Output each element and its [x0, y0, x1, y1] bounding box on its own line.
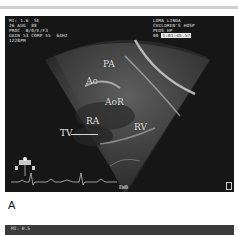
- echocardiogram-panel-b: MI: 0.5: [5, 225, 234, 235]
- label-ao: Ao: [86, 76, 98, 86]
- panel-label: A: [8, 199, 15, 211]
- label-tv: TV: [60, 128, 73, 138]
- overlay-right-text: LOMA LINDACHILDREN'S HOSPPEDS HP00 1:01:…: [153, 18, 195, 38]
- label-rv: RV: [134, 122, 147, 132]
- panel-b-overlay-text: MI: 0.5: [11, 226, 30, 231]
- ecg-trace: [9, 156, 119, 190]
- label-aor: AoR: [105, 97, 124, 107]
- top-rule: [0, 6, 238, 9]
- label-ra: RA: [86, 116, 99, 126]
- overlay-left-text: MI: 1.6 SE26 AUG 88PROC B/0/E/F3GAIN 53 …: [9, 18, 68, 43]
- probe-marker: EWB: [119, 184, 128, 190]
- label-pa: PA: [103, 59, 115, 69]
- corner-marker: [226, 182, 232, 190]
- echocardiogram-panel-a: MI: 1.6 SE26 AUG 88PROC B/0/E/F3GAIN 53 …: [5, 16, 234, 192]
- tv-pointer-line: [71, 134, 98, 135]
- time-highlight: 1:01:45.57: [161, 33, 191, 38]
